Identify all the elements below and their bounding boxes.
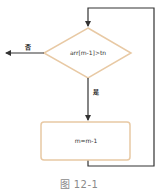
decision-label: arr[m-1]>tn <box>70 49 106 56</box>
flowchart: arr[m-1]>tn 否 是 m=m-1 <box>0 0 158 192</box>
process-label: m=m-1 <box>75 137 98 144</box>
no-branch-label: 否 <box>25 43 31 51</box>
figure-caption: 图 12-1 <box>0 176 158 191</box>
yes-branch-label: 是 <box>92 88 100 96</box>
